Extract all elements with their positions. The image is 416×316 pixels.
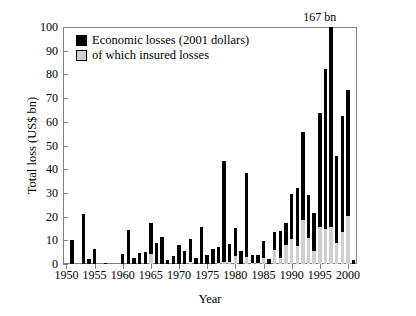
x-tick-mark — [66, 264, 67, 269]
y-tick-label: 90 — [18, 45, 58, 57]
bar-insured-1977 — [217, 262, 220, 264]
bar-1957 — [104, 263, 107, 264]
legend-swatch-economic-icon — [76, 35, 87, 46]
bar-insured-1998 — [335, 242, 338, 264]
bar-1989 — [284, 223, 287, 264]
legend-item-insured: of which insured losses — [76, 48, 249, 63]
bar-2001 — [352, 260, 355, 264]
bar-1999 — [341, 116, 344, 264]
bar-insured-1983 — [251, 262, 254, 264]
x-tick-mark — [264, 264, 265, 269]
bar-insured-1986 — [267, 263, 270, 264]
y-tick-label: 20 — [18, 211, 58, 223]
y-tick-label: 80 — [18, 68, 58, 80]
bar-insured-1990 — [290, 238, 293, 264]
bar-1961 — [127, 230, 130, 264]
x-tick-mark — [123, 264, 124, 269]
bar-1962 — [132, 258, 135, 264]
bar-1960 — [121, 254, 124, 264]
bar-insured-1981 — [239, 263, 242, 264]
bar-1963 — [138, 253, 141, 264]
bar-insured-1987 — [273, 249, 276, 264]
bar-insured-1989 — [284, 244, 287, 264]
loss-bar-chart-figure: Total loss (US$ bn) Year 010203040506070… — [0, 0, 416, 316]
bar-1983 — [251, 255, 254, 264]
bar-1981 — [239, 251, 242, 264]
bar-insured-1971 — [183, 263, 186, 264]
bar-insured-1967 — [160, 263, 163, 264]
bar-insured-1997 — [329, 226, 332, 264]
bar-1951 — [70, 240, 73, 264]
y-tick-label: 50 — [18, 140, 58, 152]
x-tick-mark — [151, 264, 152, 269]
bar-insured-1993 — [307, 237, 310, 264]
peak-value-annotation: 167 bn — [280, 10, 360, 25]
bar-insured-1992 — [301, 219, 304, 264]
y-tick-label: 60 — [18, 116, 58, 128]
bar-1980 — [234, 228, 237, 264]
x-axis-title: Year — [55, 292, 365, 307]
bar-insured-1988 — [279, 257, 282, 264]
bar-1965 — [149, 223, 152, 264]
legend-swatch-insured-icon — [76, 50, 87, 61]
legend-label-insured: of which insured losses — [92, 48, 209, 63]
bar-1968 — [166, 260, 169, 264]
bar-1964 — [144, 252, 147, 264]
bar-1976 — [211, 249, 214, 264]
x-tick-mark — [95, 264, 96, 269]
bar-1969 — [172, 256, 175, 264]
bar-1996 — [324, 69, 327, 264]
x-tick-mark — [320, 264, 321, 269]
bar-insured-1965 — [149, 253, 152, 264]
bar-1982 — [245, 173, 248, 264]
bar-insured-2001 — [352, 263, 355, 264]
y-tick-label: 30 — [18, 187, 58, 199]
bar-1971 — [183, 251, 186, 264]
bar-1986 — [267, 259, 270, 264]
legend-label-economic: Economic losses (2001 dollars) — [92, 33, 249, 48]
y-tick-label: 40 — [18, 163, 58, 175]
bar-1966 — [155, 243, 158, 264]
bar-insured-1978 — [222, 261, 225, 264]
bar-1990 — [290, 194, 293, 264]
bar-insured-1991 — [296, 245, 299, 264]
bar-insured-1995 — [318, 226, 321, 264]
bar-insured-1975 — [205, 263, 208, 264]
bar-insured-2000 — [346, 215, 349, 264]
x-tick-mark — [348, 264, 349, 269]
bar-insured-1974 — [200, 263, 203, 264]
bar-insured-1984 — [256, 262, 259, 264]
bar-insured-1980 — [234, 255, 237, 264]
y-tick-label: 100 — [18, 21, 58, 33]
bar-1988 — [279, 231, 282, 264]
bar-insured-1970 — [177, 263, 180, 264]
bar-1993 — [307, 195, 310, 264]
bar-insured-1973 — [194, 263, 197, 264]
bar-insured-1976 — [211, 263, 214, 264]
bar-1991 — [296, 188, 299, 264]
x-tick-mark — [179, 264, 180, 269]
bar-1954 — [87, 259, 90, 264]
x-tick-mark — [207, 264, 208, 269]
y-tick-label: 70 — [18, 92, 58, 104]
bar-insured-1985 — [262, 257, 265, 264]
bar-1994 — [312, 213, 315, 264]
bar-insured-1996 — [324, 228, 327, 264]
bar-insured-1966 — [155, 263, 158, 264]
bar-1979 — [228, 244, 231, 264]
bar-2000 — [346, 90, 349, 264]
bar-1978 — [222, 161, 225, 264]
bar-1955 — [93, 249, 96, 264]
bar-1974 — [200, 227, 203, 264]
bar-1972 — [189, 239, 192, 264]
bar-1967 — [160, 237, 163, 264]
x-tick-mark — [292, 264, 293, 269]
bar-1997 — [329, 27, 332, 264]
bar-1973 — [194, 258, 197, 264]
bar-insured-1994 — [312, 250, 315, 264]
legend-item-economic: Economic losses (2001 dollars) — [76, 33, 249, 48]
bar-1995 — [318, 113, 321, 264]
y-tick-label: 10 — [18, 234, 58, 246]
bar-1987 — [273, 232, 276, 264]
bar-1984 — [256, 255, 259, 264]
